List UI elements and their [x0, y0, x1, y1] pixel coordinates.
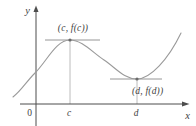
x-axis-label: x: [184, 110, 190, 121]
y-axis-arrow-icon: [34, 6, 39, 13]
figure-canvas: y x 0 c d (c, f(c)) (d, f(d)): [0, 0, 196, 126]
local-max-point: [68, 38, 71, 41]
tick-label-d: d: [134, 108, 139, 118]
local-max-label: (c, f(c)): [58, 23, 88, 34]
tick-label-c: c: [67, 108, 72, 118]
local-min-point: [135, 77, 138, 80]
local-min-label: (d, f(d)): [132, 86, 163, 97]
y-axis-label: y: [24, 5, 30, 16]
x-axis-arrow-icon: [182, 102, 190, 107]
origin-label: 0: [27, 108, 32, 118]
function-extrema-figure: y x 0 c d (c, f(c)) (d, f(d)): [0, 0, 196, 126]
